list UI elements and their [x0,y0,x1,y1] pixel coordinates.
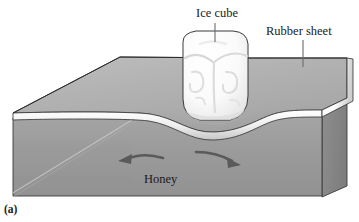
ice-cube [183,31,249,124]
label-honey: Honey [144,173,177,186]
figure-container: Ice cube Rubber sheet Honey (a) [0,0,359,222]
label-ice-cube: Ice cube [196,7,238,20]
panel-label: (a) [4,204,17,216]
label-rubber-sheet: Rubber sheet [266,25,332,38]
ice-cube-crease-vertical [214,62,215,112]
